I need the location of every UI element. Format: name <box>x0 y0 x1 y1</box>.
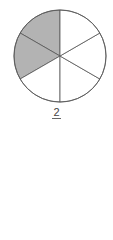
fraction-label: 2 <box>0 106 113 119</box>
fraction-numerator: 2 <box>52 106 60 119</box>
